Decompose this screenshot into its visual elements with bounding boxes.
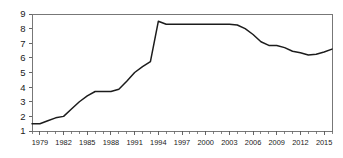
x-tick-label: 1997 — [174, 138, 190, 147]
y-tick-label: 4 — [20, 82, 25, 93]
line-chart: 1234567891979198219851988199119941997200… — [0, 0, 343, 158]
y-tick-label: 5 — [20, 67, 25, 78]
x-tick-label: 2000 — [197, 138, 213, 147]
plot-frame — [32, 14, 332, 131]
x-tick-label: 1979 — [32, 138, 48, 147]
y-tick-label: 7 — [20, 38, 25, 49]
data-series-line — [32, 21, 332, 123]
chart-canvas: 1234567891979198219851988199119941997200… — [0, 0, 343, 158]
x-tick-label: 2003 — [221, 138, 237, 147]
x-tick-label: 1988 — [103, 138, 119, 147]
y-tick-label: 6 — [20, 52, 25, 63]
x-tick-label: 2009 — [269, 138, 285, 147]
y-tick-label: 9 — [20, 8, 25, 19]
x-tick-label: 2012 — [292, 138, 308, 147]
x-tick-label: 1991 — [126, 138, 142, 147]
y-tick-label: 3 — [20, 96, 25, 107]
x-tick-label: 2015 — [316, 138, 332, 147]
x-tick-label: 1994 — [150, 138, 166, 147]
y-tick-label: 1 — [20, 125, 25, 136]
x-tick-label: 2006 — [245, 138, 261, 147]
y-tick-label: 2 — [20, 111, 25, 122]
x-tick-label: 1985 — [79, 138, 95, 147]
y-tick-label: 8 — [20, 23, 25, 34]
x-tick-label: 1982 — [55, 138, 71, 147]
